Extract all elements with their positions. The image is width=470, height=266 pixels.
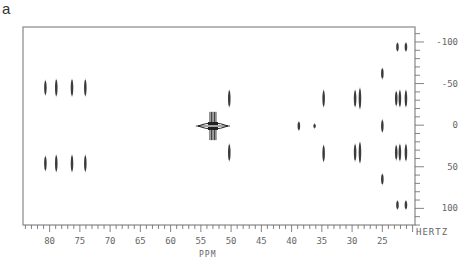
y-axis-hertz: -100-50050100 <box>415 34 458 225</box>
x-tick-label: 60 <box>165 236 176 246</box>
x-tick-label: 40 <box>286 236 297 246</box>
cross-peak-core <box>208 122 218 125</box>
peak-layer <box>44 42 407 210</box>
y-tick-label: 50 <box>447 162 458 172</box>
x-tick-label: 50 <box>226 236 237 246</box>
y-axis-title: HERTZ <box>416 227 448 237</box>
nmr-contour-chart: 807570656055504540353025 -100-50050100 P… <box>0 0 470 266</box>
y-tick-label: -50 <box>442 79 458 89</box>
x-tick-label: 55 <box>195 236 206 246</box>
x-tick-label: 45 <box>256 236 267 246</box>
x-tick-label: 80 <box>44 236 55 246</box>
x-tick-label: 75 <box>74 236 85 246</box>
x-axis-ppm: 807570656055504540353025 <box>25 225 412 246</box>
y-tick-label: -100 <box>436 37 458 47</box>
x-tick-label: 65 <box>135 236 146 246</box>
cross-peak-core <box>208 127 218 130</box>
y-tick-label: 100 <box>442 203 458 213</box>
x-axis-title: PPM <box>199 250 216 259</box>
x-tick-label: 25 <box>377 236 388 246</box>
y-tick-label: 0 <box>453 120 458 130</box>
x-tick-label: 35 <box>316 236 327 246</box>
x-tick-label: 70 <box>105 236 116 246</box>
cross-peak-multiplet <box>196 112 230 140</box>
x-tick-label: 30 <box>347 236 358 246</box>
